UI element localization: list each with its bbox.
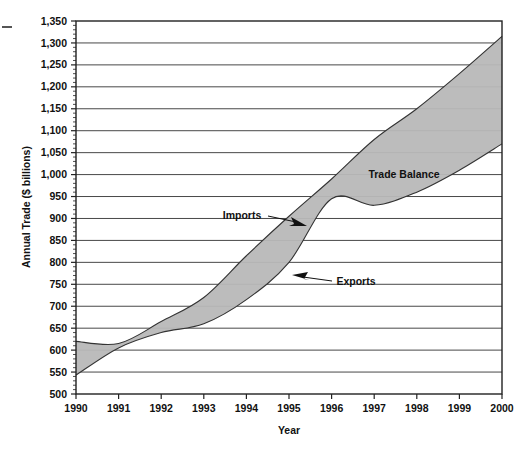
x-tick-label: 1991: [107, 402, 131, 414]
x-tick-label: 1999: [448, 402, 472, 414]
y-tick-label: 1,000: [41, 168, 67, 180]
chart-figure: 5005506006507007508008509009501,0001,050…: [0, 0, 529, 450]
x-tick-label: 1994: [235, 402, 259, 414]
y-axis: 5005506006507007508008509009501,0001,050…: [41, 15, 76, 400]
y-tick-label: 1,150: [41, 102, 67, 114]
x-tick-label: 2000: [490, 402, 514, 414]
y-tick-label: 950: [49, 190, 67, 202]
y-axis-title: Annual Trade ($ billions): [20, 146, 32, 268]
y-tick-label: 750: [49, 278, 67, 290]
x-tick-label: 1996: [320, 402, 344, 414]
y-tick-label: 600: [49, 344, 67, 356]
y-tick-label: 1,300: [41, 37, 67, 49]
corner-registration-mark: [2, 26, 12, 28]
x-tick-label: 1997: [363, 402, 387, 414]
x-tick-label: 1990: [64, 402, 88, 414]
y-tick-label: 700: [49, 300, 67, 312]
y-tick-label: 550: [49, 366, 67, 378]
exports-annotation-label: Exports: [336, 275, 375, 287]
x-axis: 1990199119921993199419951996199719981999…: [64, 394, 514, 414]
y-tick-label: 800: [49, 256, 67, 268]
y-tick-label: 500: [49, 388, 67, 400]
x-tick-label: 1993: [192, 402, 216, 414]
x-tick-label: 1995: [277, 402, 301, 414]
y-tick-label: 900: [49, 212, 67, 224]
y-tick-label: 1,200: [41, 80, 67, 92]
trade-balance-area-chart: 5005506006507007508008509009501,0001,050…: [0, 0, 529, 450]
x-axis-title: Year: [278, 424, 300, 436]
y-tick-label: 1,250: [41, 58, 67, 70]
y-tick-label: 1,100: [41, 124, 67, 136]
y-tick-label: 650: [49, 322, 67, 334]
y-tick-label: 1,050: [41, 146, 67, 158]
y-tick-label: 1,350: [41, 15, 67, 27]
x-tick-label: 1992: [150, 402, 174, 414]
x-tick-label: 1998: [405, 402, 429, 414]
y-tick-label: 850: [49, 234, 67, 246]
imports-annotation-label: Imports: [223, 209, 262, 221]
trade-balance-label: Trade Balance: [368, 168, 439, 180]
